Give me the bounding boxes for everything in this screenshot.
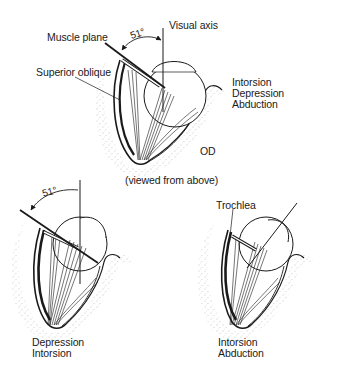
muscle-plane-line bbox=[105, 43, 165, 88]
action-label: Intorsion bbox=[32, 348, 84, 359]
trochlea-label: Trochlea bbox=[216, 200, 256, 211]
action-label: Abduction bbox=[218, 348, 264, 359]
superior-oblique-diagram: Muscle plane Visual axis 51° Superior ob… bbox=[0, 0, 339, 373]
muscle-plane-label: Muscle plane bbox=[47, 32, 108, 43]
superior-oblique-label: Superior oblique bbox=[36, 67, 111, 78]
globe bbox=[144, 65, 206, 127]
trochlea-leader bbox=[230, 209, 233, 236]
eye-label: OD bbox=[200, 146, 216, 157]
abducted-actions-list: Intorsion Abduction bbox=[218, 337, 264, 359]
medial-rectus-band bbox=[225, 232, 236, 320]
caption-label: (viewed from above) bbox=[125, 175, 218, 186]
visual-axis-label: Visual axis bbox=[169, 20, 218, 31]
cornea bbox=[152, 62, 196, 73]
top-actions-list: Intorsion Depression Abduction bbox=[232, 77, 284, 110]
medial-rectus-band bbox=[120, 62, 134, 155]
abducted-orbit-view bbox=[198, 203, 314, 341]
adducted-actions-list: Depression Intorsion bbox=[32, 337, 84, 359]
medial-rectus-band bbox=[38, 230, 50, 320]
action-label: Abduction bbox=[232, 99, 284, 110]
angle-arc bbox=[122, 37, 161, 50]
adducted-orbit-view bbox=[11, 180, 132, 341]
